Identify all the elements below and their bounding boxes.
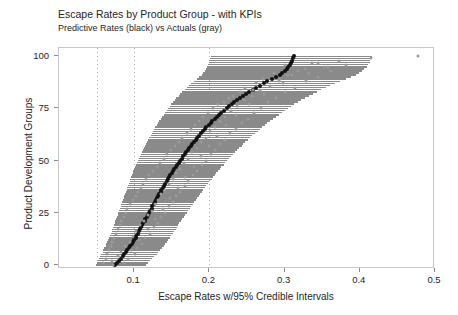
credible-interval-bar bbox=[96, 264, 146, 266]
actual-rate-point bbox=[200, 140, 203, 143]
credible-interval-bar bbox=[112, 229, 175, 231]
actual-rate-point bbox=[191, 151, 194, 154]
actual-rate-point bbox=[291, 74, 294, 77]
y-tick-mark bbox=[54, 107, 58, 108]
actual-rate-point bbox=[287, 74, 290, 77]
actual-rate-point bbox=[175, 195, 178, 198]
x-tick-label: 0.5 bbox=[427, 274, 440, 285]
actual-rate-point bbox=[144, 236, 147, 239]
actual-rate-point bbox=[224, 124, 227, 127]
actual-rate-point bbox=[310, 61, 313, 64]
actual-rate-point bbox=[176, 186, 179, 189]
actual-rate-point bbox=[242, 99, 245, 102]
actual-rate-point bbox=[150, 209, 153, 212]
actual-rate-point bbox=[240, 122, 243, 125]
actual-rate-point bbox=[130, 249, 133, 252]
actual-rate-point bbox=[171, 178, 174, 181]
actual-rate-point bbox=[146, 228, 149, 231]
actual-rate-point bbox=[224, 115, 227, 118]
actual-rate-point bbox=[136, 190, 139, 193]
chart-subtitle: Predictive Rates (black) vs Actuals (gra… bbox=[58, 23, 222, 33]
actual-rate-point bbox=[167, 182, 170, 185]
actual-rate-point bbox=[164, 188, 167, 191]
actual-rate-point bbox=[124, 211, 127, 214]
actual-rate-point bbox=[132, 234, 135, 237]
actual-rate-point bbox=[182, 161, 185, 164]
actual-rate-point bbox=[214, 149, 217, 152]
credible-interval-bar bbox=[106, 245, 164, 247]
actual-rate-point bbox=[179, 190, 182, 193]
actual-rate-point bbox=[136, 247, 139, 250]
x-tick-mark bbox=[359, 268, 360, 272]
actual-rate-point bbox=[115, 232, 118, 235]
credible-interval-bar bbox=[107, 241, 166, 243]
actual-rate-point bbox=[322, 65, 325, 68]
actual-rate-point bbox=[187, 180, 190, 183]
actual-rate-point bbox=[177, 140, 180, 143]
actual-rate-point bbox=[129, 203, 132, 206]
actual-rate-point bbox=[122, 261, 125, 264]
actual-rate-point bbox=[234, 128, 237, 131]
x-tick-label: 0.3 bbox=[277, 274, 290, 285]
x-tick-mark bbox=[434, 268, 435, 272]
actual-rate-point bbox=[183, 184, 186, 187]
actual-rate-point bbox=[209, 130, 212, 133]
actual-rate-point bbox=[344, 63, 347, 66]
actual-rate-point bbox=[263, 92, 266, 95]
actual-rate-point bbox=[109, 245, 112, 248]
credible-interval-bar bbox=[115, 222, 180, 224]
actual-rate-point bbox=[236, 105, 239, 108]
actual-rate-point bbox=[155, 165, 158, 168]
actual-rate-point bbox=[212, 107, 215, 110]
actual-rate-point bbox=[297, 69, 300, 72]
chart-title: Escape Rates by Product Group - with KPI… bbox=[58, 8, 262, 20]
y-tick-label: 100 bbox=[9, 50, 49, 61]
credible-interval-bar bbox=[115, 220, 180, 222]
y-tick-mark bbox=[54, 55, 58, 56]
actual-rate-point bbox=[252, 111, 255, 114]
actual-rate-point bbox=[258, 88, 261, 91]
actual-rate-point bbox=[187, 157, 190, 160]
actual-rate-point bbox=[282, 82, 285, 85]
actual-rate-point bbox=[214, 126, 217, 129]
actual-rate-point bbox=[247, 103, 250, 106]
x-tick-label: 0.1 bbox=[127, 274, 140, 285]
gridline-vertical bbox=[97, 48, 98, 267]
actual-rate-point bbox=[127, 257, 130, 260]
credible-interval-bar bbox=[113, 227, 177, 229]
actual-rate-point bbox=[157, 199, 160, 202]
actual-rate-point bbox=[202, 115, 205, 118]
actual-rate-point bbox=[224, 138, 227, 141]
actual-rate-point bbox=[417, 55, 420, 58]
actual-rate-point bbox=[133, 253, 136, 256]
actual-rate-point bbox=[173, 144, 176, 147]
credible-interval-bar bbox=[101, 254, 157, 256]
actual-rate-point bbox=[218, 142, 221, 145]
actual-rate-point bbox=[294, 86, 297, 89]
actual-rate-point bbox=[134, 195, 137, 198]
actual-rate-point bbox=[191, 174, 194, 177]
actual-rate-point bbox=[267, 101, 270, 104]
actual-rate-point bbox=[192, 165, 195, 168]
actual-rate-point bbox=[140, 242, 143, 245]
actual-rate-point bbox=[120, 220, 123, 223]
actual-rate-point bbox=[370, 57, 373, 60]
actual-rate-point bbox=[122, 215, 125, 218]
credible-interval-bar bbox=[116, 218, 182, 220]
actual-rate-point bbox=[337, 59, 340, 62]
actual-rate-point bbox=[117, 255, 120, 258]
actual-rate-point bbox=[104, 257, 107, 260]
actual-rate-point bbox=[307, 72, 310, 75]
y-axis-title: Product Development Groups bbox=[23, 89, 34, 239]
actual-rate-point bbox=[160, 215, 163, 218]
y-tick-mark bbox=[54, 264, 58, 265]
actual-rate-point bbox=[268, 84, 271, 87]
actual-rate-point bbox=[250, 94, 253, 97]
x-axis-title: Escape Rates w/95% Credible Intervals bbox=[58, 291, 434, 302]
actual-rate-point bbox=[243, 86, 246, 89]
actual-rate-point bbox=[200, 163, 203, 166]
actual-rate-point bbox=[124, 245, 127, 248]
actual-rate-point bbox=[330, 69, 333, 72]
actual-rate-point bbox=[164, 211, 167, 214]
credible-interval-bar bbox=[132, 174, 215, 176]
